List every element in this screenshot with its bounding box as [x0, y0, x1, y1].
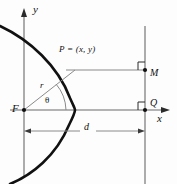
point-focus [22, 108, 26, 112]
angle-theta-label: θ [45, 96, 49, 105]
conic-figure: y x F P = (x, y) r θ M Q d [0, 0, 177, 184]
y-axis [21, 8, 27, 176]
point-m-label: M [150, 68, 158, 78]
point-q [143, 108, 147, 112]
focus-label: F [12, 103, 19, 114]
y-axis-arrow-icon [21, 8, 27, 17]
point-p-label: P = (x, y) [59, 45, 95, 54]
point-m [143, 68, 147, 72]
radius-label: r [40, 81, 44, 90]
point-q-label: Q [150, 98, 157, 108]
figure-canvas [0, 0, 177, 184]
distance-label: d [84, 122, 89, 132]
y-axis-label: y [33, 4, 38, 15]
x-axis-label: x [157, 113, 162, 124]
x-axis-arrow-icon [161, 107, 170, 113]
